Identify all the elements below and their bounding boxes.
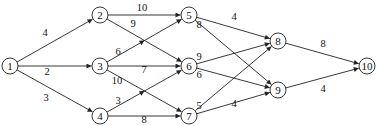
edge-weight-label: 7: [141, 64, 146, 75]
edge-weight-label: 6: [196, 69, 201, 80]
node-label: 2: [97, 9, 103, 21]
node-2: 2: [92, 7, 108, 23]
edge-weight-label: 5: [196, 100, 201, 111]
node-4: 4: [92, 108, 108, 124]
node-label: 6: [186, 60, 192, 72]
edge-6-9: [197, 68, 270, 88]
node-label: 4: [97, 110, 103, 122]
mid-arrow-icon: [141, 91, 144, 93]
node-7: 7: [181, 108, 197, 124]
edge-weight-label: 9: [130, 18, 135, 29]
graph-svg: 12345678910 42310967103848965484: [0, 0, 378, 126]
node-5: 5: [181, 7, 197, 23]
node-3: 3: [92, 58, 108, 74]
node-1: 1: [2, 58, 18, 74]
edge-weight-label: 4: [320, 83, 326, 94]
node-label: 9: [275, 84, 281, 96]
edge-1-4: [17, 70, 93, 112]
edge-weight-label: 8: [141, 114, 146, 125]
edge-1-2: [17, 19, 93, 62]
node-label: 3: [97, 60, 103, 72]
node-9: 9: [270, 82, 286, 98]
node-6: 6: [181, 58, 197, 74]
edge-weight-label: 4: [42, 27, 48, 38]
graph-diagram: 12345678910 42310967103848965484: [0, 0, 378, 126]
edge-weight-label: 10: [112, 75, 123, 86]
edge-weight-label: 4: [231, 11, 237, 22]
edge-weight-label: 8: [196, 19, 201, 30]
edge-5-9: [195, 20, 271, 84]
node-label: 7: [186, 110, 192, 122]
edge-6-8: [197, 43, 270, 64]
node-8: 8: [270, 33, 286, 49]
node-label: 5: [186, 9, 192, 21]
edge-weight-label: 6: [115, 46, 120, 57]
nodes-group: 12345678910: [2, 7, 375, 124]
edge-weight-label: 9: [196, 51, 201, 62]
edge-weight-label: 4: [231, 98, 237, 109]
node-label: 1: [7, 60, 13, 72]
edge-weight-label: 3: [43, 92, 48, 103]
edge-weight-label: 2: [44, 66, 49, 77]
edge-weight-label: 3: [115, 95, 120, 106]
edge-weight-label: 10: [137, 2, 148, 13]
mid-arrow-icon: [141, 41, 144, 43]
node-label: 10: [362, 60, 374, 72]
edge-weight-label: 8: [320, 38, 325, 49]
node-label: 8: [275, 35, 281, 47]
node-10: 10: [359, 58, 375, 74]
